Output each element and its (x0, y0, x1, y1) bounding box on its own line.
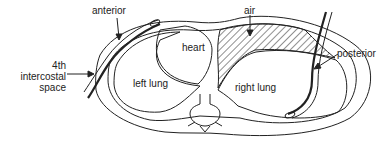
label-air: air (244, 5, 255, 16)
thorax-diagram: anterior air heart posterior 4th interco… (0, 0, 391, 143)
label-intercostal-line3: space (10, 82, 66, 93)
label-intercostal-line1: 4th (10, 60, 66, 71)
label-right-lung: right lung (235, 82, 276, 93)
heart-outline (156, 26, 212, 84)
vertebra (188, 94, 222, 132)
label-heart: heart (182, 42, 205, 53)
label-anterior: anterior (92, 5, 126, 16)
label-intercostal-line2: intercostal (10, 71, 66, 82)
label-posterior: posterior (337, 48, 376, 59)
label-left-lung: left lung (133, 78, 168, 89)
